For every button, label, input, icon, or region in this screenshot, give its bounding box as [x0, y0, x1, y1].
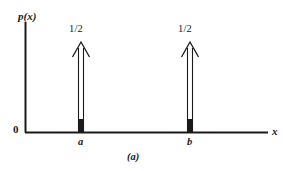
- x-tick-label-b: b: [187, 137, 192, 148]
- impulse-a-base-block: [78, 119, 84, 133]
- probability-density-figure: p(x) 0 x 1/2 1/2 a b (a): [0, 0, 283, 171]
- impulse-a-value-label: 1/2: [69, 24, 83, 35]
- y-axis-label: p(x): [18, 11, 36, 22]
- impulse-b-value-label: 1/2: [178, 24, 192, 35]
- impulse-arrow-a: [73, 42, 90, 133]
- plot-canvas: [0, 0, 283, 171]
- figure-caption: (a): [127, 152, 139, 163]
- x-axis-label: x: [272, 126, 278, 137]
- impulse-b-arrowhead: [182, 42, 199, 57]
- impulse-a-arrowhead: [73, 42, 90, 57]
- x-tick-label-a: a: [78, 137, 83, 148]
- impulse-b-base-block: [187, 119, 193, 133]
- impulse-arrow-b: [182, 42, 199, 133]
- origin-label: 0: [13, 124, 19, 135]
